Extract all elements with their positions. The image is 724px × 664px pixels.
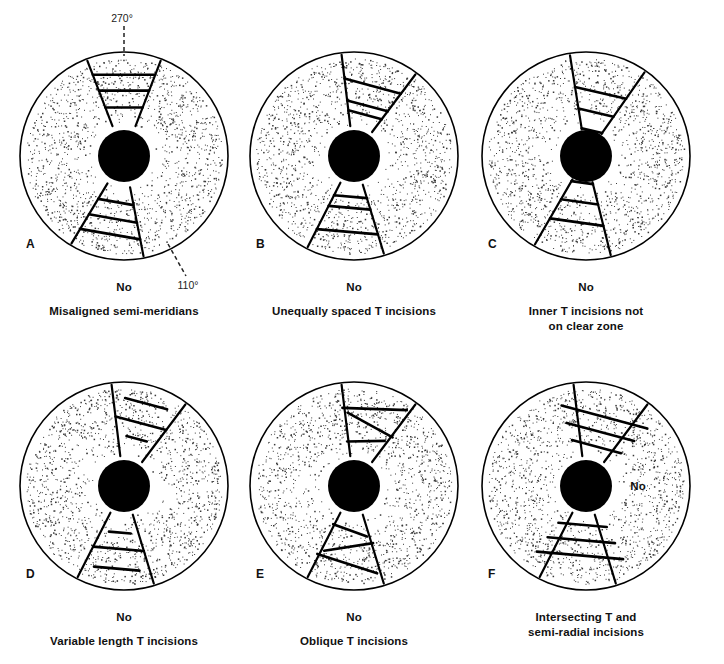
verdict-label: No [244, 280, 464, 295]
panel-letter: D [26, 567, 35, 581]
panel-caption: Intersecting T and semi-radial incisions [462, 610, 710, 640]
pupil [328, 460, 380, 512]
pupil [560, 460, 612, 512]
transverse-incision [347, 441, 384, 442]
verdict-label: No [14, 280, 234, 295]
figure-canvas: 270°110°ANoMisaligned semi-meridiansBNoU… [0, 0, 724, 664]
panel-e: E [244, 376, 464, 596]
panel-caption: Unequally spaced T incisions [230, 304, 478, 319]
verdict-label: No [476, 280, 696, 295]
panel-letter: A [26, 237, 35, 251]
pupil [98, 460, 150, 512]
panel-f: FNo [476, 376, 696, 596]
panel-b: B [244, 46, 464, 266]
panel-caption: Misaligned semi-meridians [0, 304, 248, 319]
panel-caption: Variable length T incisions [0, 634, 248, 649]
verdict-label: No [244, 610, 464, 625]
panel-a: 270°110°A [14, 46, 234, 266]
panel-letter: F [488, 567, 495, 581]
pupil [328, 130, 380, 182]
panel-letter: C [488, 237, 497, 251]
panel-c: C [476, 46, 696, 266]
verdict-label: No [14, 610, 234, 625]
panel-caption: Inner T incisions not on clear zone [462, 304, 710, 334]
panel-letter: B [256, 237, 265, 251]
panel-letter: E [256, 567, 264, 581]
panel-d: D [14, 376, 234, 596]
panel-caption: Oblique T incisions [230, 634, 478, 649]
pupil [560, 130, 612, 182]
verdict-label-inside: No [630, 480, 645, 492]
pupil [98, 130, 150, 182]
angle-label-top: 270° [111, 12, 133, 24]
